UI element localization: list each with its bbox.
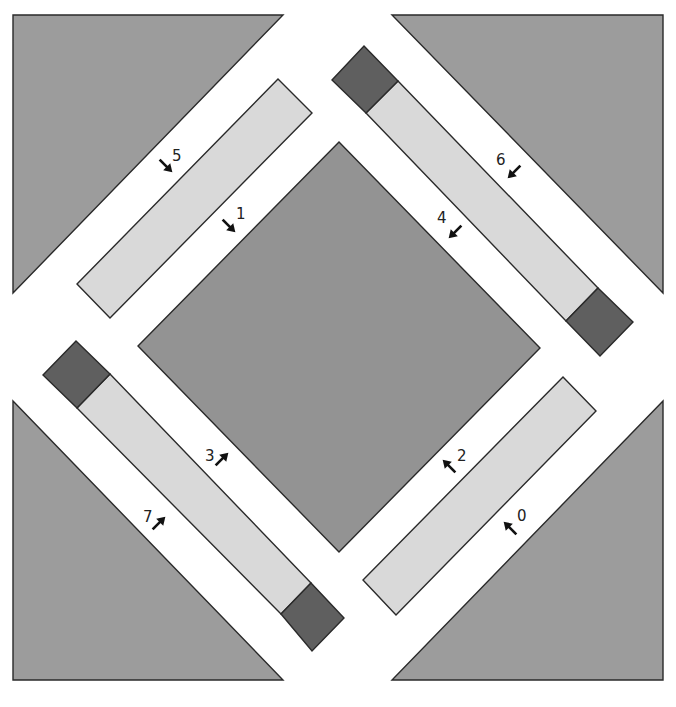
step-label-2: 2 (439, 447, 466, 476)
step-number: 0 (517, 507, 527, 525)
step-label-0: 0 (500, 507, 526, 538)
arrow-icon (504, 162, 524, 182)
step-number: 7 (143, 508, 153, 526)
step-label-4: 4 (437, 209, 465, 242)
step-number: 1 (236, 205, 246, 223)
step-label-3: 3 (205, 447, 232, 469)
quilt-block-diagram: 51643720 (0, 0, 676, 707)
step-number: 3 (205, 447, 215, 465)
arrow-icon (445, 222, 465, 242)
step-number: 5 (172, 147, 182, 165)
step-label-7: 7 (143, 508, 169, 533)
arrow-icon (212, 449, 232, 469)
step-label-1: 1 (219, 205, 245, 236)
step-number: 2 (457, 447, 467, 465)
step-number: 4 (437, 209, 447, 227)
step-number: 6 (496, 151, 506, 169)
step-label-6: 6 (496, 151, 524, 182)
step-label-5: 5 (156, 147, 181, 176)
arrow-icon (439, 456, 459, 476)
